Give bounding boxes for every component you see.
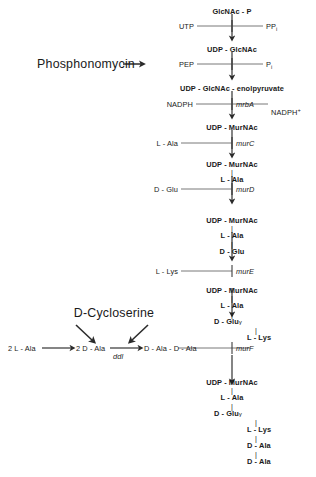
drug-label-d-cycloserine: D-Cycloserine [74,306,154,320]
product-pi: Pi [266,60,272,70]
compound-udp-glcnac-enolpyruvate: UDP - GlcNAc - enolpyruvate [180,84,284,93]
enzyme-murc: murC [236,139,254,148]
substrate-two-l-ala: 2 L - Ala [8,344,36,353]
substrate-pep: PEP [179,60,194,69]
residue-l-ala-3: L - Ala [221,301,244,310]
product-pi-subscript: i [271,64,272,70]
product-ppi-base: PP [266,22,276,31]
product-ppi: PPi [266,22,277,32]
pathway-connectors [0,0,316,477]
drug-label-phosphonomycin: Phosphonomycin [37,57,135,71]
enzyme-murf: murF [236,344,254,353]
substrate-d-glu-murd: D - Glu [154,185,178,194]
intermediate-d-ala-d-ala: D - Ala - D - Ala [144,344,197,353]
product-nadph-plus-superscript: + [297,107,300,113]
compound-glcnac-p: GlcNAc - P [212,7,251,16]
residue-d-glu-1: D - Glu [220,247,245,256]
compound-udp-murnac-1: UDP - MurNAc [206,123,258,132]
residue-d-ala-2: D - Ala [247,457,271,466]
enzyme-mure: murE [236,267,254,276]
product-ppi-subscript: i [276,26,277,32]
residue-d-glu-2: D - Glu [214,317,239,326]
residue-d-ala-1: D - Ala [247,441,271,450]
substrate-utp: UTP [179,22,194,31]
residue-l-lys-1: L - Lys [247,333,271,342]
gamma-linkage-symbol: γ [239,410,242,417]
residue-d-glu-3-group: D - Gluγ [214,409,242,418]
substrate-nadph: NADPH [167,100,193,109]
substrate-l-lys-mure: L - Lys [156,267,178,276]
compound-udp-glcnac: UDP - GlcNAc [207,45,257,54]
residue-l-ala-1: L - Ala [221,175,244,184]
enzyme-mrba: mrbA [236,100,254,109]
substrate-l-ala-murc: L - Ala [157,139,178,148]
residue-l-lys-2: L - Lys [247,425,271,434]
residue-l-ala-2: L - Ala [221,231,244,240]
product-nadph-plus-base: NADPH [271,108,297,117]
residue-l-ala-4: L - Ala [221,393,244,402]
product-nadph-plus: NADPH+ [271,107,301,117]
gamma-linkage-symbol: γ [239,318,242,325]
enzyme-murd: murD [236,185,254,194]
intermediate-two-d-ala: 2 D - Ala [76,344,105,353]
residue-d-glu-2-group: D - Gluγ [214,317,242,326]
residue-d-glu-3: D - Glu [214,409,239,418]
enzyme-ddl: ddl [113,352,123,361]
